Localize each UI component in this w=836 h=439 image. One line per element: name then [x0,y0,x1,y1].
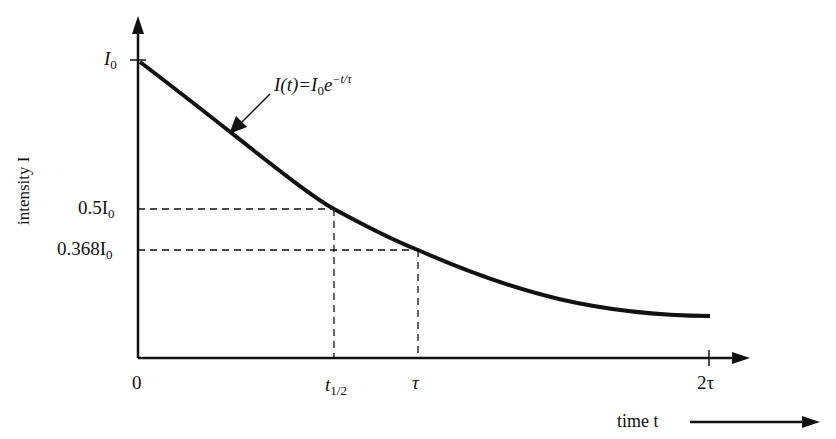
y-tick-i0: I0 [104,48,117,73]
decay-curve [140,62,710,316]
equation-label: I(t)=I0e−t/τ [274,72,351,99]
y-axis-arrow-icon [132,16,144,34]
time-arrow-head-icon [802,416,820,428]
x-tick-tau: τ [412,372,419,394]
y-tick-half: 0.5I0 [78,197,115,222]
x-axis-label: time t [617,411,659,432]
x-tick-thalf: t1/2 [325,374,347,399]
x-axis-arrow-icon [732,352,750,364]
y-tick-0368: 0.368I0 [57,238,113,263]
annotation-arrow [240,94,270,124]
x-tick-2tau: 2τ [697,372,714,394]
y-axis-label: intensity I [14,157,34,225]
x-tick-0: 0 [132,372,142,394]
